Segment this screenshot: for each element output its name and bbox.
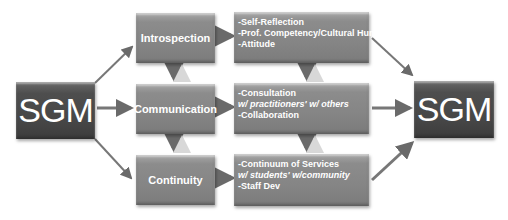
stage-introspection-box: Introspection xyxy=(136,13,215,63)
detail-line: -Prof. Competency/Cultural Humility xyxy=(238,28,365,39)
stage-communication-box: Communication xyxy=(136,84,215,134)
sgm-target-box: SGM xyxy=(414,81,494,138)
sgm-target-label: SGM xyxy=(417,90,491,129)
detail-line: w/ practitioners' w/ others xyxy=(238,99,365,110)
arrow-sgm-to-continuity xyxy=(95,139,131,178)
arrow-details3-to-sgm xyxy=(372,143,412,180)
detail-line: -Staff Dev xyxy=(238,181,365,192)
stage-continuity-label: Continuity xyxy=(148,174,202,186)
arrow-sgm-to-introspection xyxy=(95,47,132,83)
stage-communication-label: Communication xyxy=(134,103,217,115)
detail-line: -Collaboration xyxy=(238,110,365,121)
detail-line: -Self-Reflection xyxy=(238,17,365,28)
detail-line: w/ students' w/community xyxy=(238,170,365,181)
sgm-source-box: SGM xyxy=(16,82,95,139)
detail-line: -Consultation xyxy=(238,88,365,99)
arrow-details1-to-sgm xyxy=(372,38,412,75)
introspection-details-box: -Self-Reflection -Prof. Competency/Cultu… xyxy=(234,12,369,63)
stage-introspection-label: Introspection xyxy=(141,32,211,44)
communication-details-box: -Consultation w/ practitioners' w/ other… xyxy=(234,83,369,134)
sgm-source-label: SGM xyxy=(18,91,92,130)
stage-continuity-box: Continuity xyxy=(136,155,215,205)
detail-line: -Attitude xyxy=(238,39,365,50)
continuity-details-box: -Continuum of Services w/ students' w/co… xyxy=(234,154,369,206)
detail-line: -Continuum of Services xyxy=(238,159,365,170)
